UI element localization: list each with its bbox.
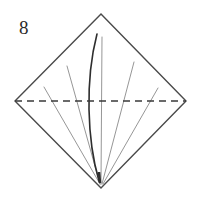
origami-figure: 8	[0, 0, 201, 198]
origami-diagram	[0, 0, 201, 198]
emphasized-curve-tail	[99, 172, 100, 183]
